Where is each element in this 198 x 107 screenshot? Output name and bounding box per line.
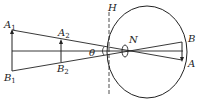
label-b1: B1: [3, 72, 16, 85]
arrow-a2-icon: [59, 39, 63, 44]
ray-b1: [12, 42, 182, 71]
ray-a1: [12, 30, 182, 60]
label-a: A: [187, 58, 195, 69]
label-a1: A1: [3, 19, 16, 32]
label-b2: B2: [56, 63, 69, 76]
label-n: N: [128, 34, 139, 45]
eye-diagram: A1 B1 A2 B2 θ H N B A: [0, 0, 198, 107]
label-b: B: [187, 33, 195, 44]
label-theta: θ: [89, 47, 95, 58]
label-h: H: [107, 2, 117, 13]
eyeball: [107, 6, 187, 98]
